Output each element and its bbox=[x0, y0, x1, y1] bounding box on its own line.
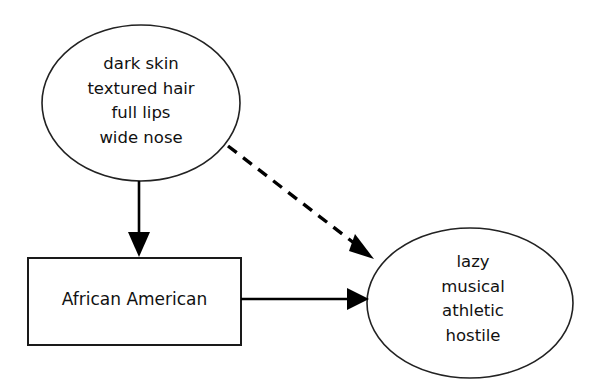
arrow-head-diagonal-icon bbox=[349, 234, 374, 259]
arrow-head-down-icon bbox=[128, 232, 150, 257]
traits-line-4: wide nose bbox=[42, 126, 240, 151]
physical-traits-label: dark skin textured hair full lips wide n… bbox=[42, 52, 240, 150]
stereotype-attributes-label: lazy musical athletic hostile bbox=[372, 250, 574, 348]
traits-line-1: dark skin bbox=[42, 52, 240, 77]
group-line-1: African American bbox=[28, 288, 241, 310]
diagram-canvas: dark skin textured hair full lips wide n… bbox=[0, 0, 598, 387]
traits-to-group-arrow[interactable] bbox=[128, 181, 150, 257]
stereotype-line-1: lazy bbox=[372, 250, 574, 275]
traits-to-stereotype-dashed-arrow[interactable] bbox=[228, 146, 374, 259]
traits-line-2: textured hair bbox=[42, 77, 240, 102]
stereotype-line-3: athletic bbox=[372, 299, 574, 324]
group-to-stereotype-arrow[interactable] bbox=[241, 288, 369, 310]
traits-line-3: full lips bbox=[42, 101, 240, 126]
stereotype-line-2: musical bbox=[372, 275, 574, 300]
stereotype-line-4: hostile bbox=[372, 324, 574, 349]
arrow-head-right-icon bbox=[347, 288, 369, 310]
social-category-label: African American bbox=[28, 288, 241, 310]
